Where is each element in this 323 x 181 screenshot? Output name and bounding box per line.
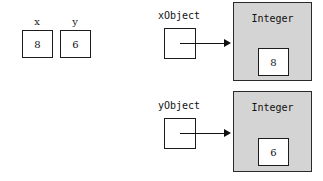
pointer-arrow-line-xobject [180,43,225,44]
reference-label-yobject: yObject [158,100,200,111]
object-field-value-8: 8 [270,57,276,68]
variable-value-x: 8 [34,39,40,50]
object-field-box-6: 6 [258,138,289,166]
pointer-arrow-line-yobject [180,133,225,134]
pointer-arrow-head-yobject [224,129,231,137]
diagram-canvas: x 8 y 6 xObject Integer 8 yObject Intege… [0,0,323,181]
object-field-value-6: 6 [270,147,276,158]
pointer-arrow-head-xobject [224,39,231,47]
variable-label-x: x [22,16,52,27]
variable-value-y: 6 [72,39,78,50]
variable-label-y: y [60,16,90,27]
object-class-name-6: Integer [234,102,311,113]
object-box-integer-8: Integer 8 [233,2,312,81]
object-box-integer-6: Integer 6 [233,91,312,172]
object-class-name-8: Integer [234,13,311,24]
reference-label-xobject: xObject [158,10,200,21]
variable-box-y: 6 [60,30,91,58]
object-field-box-8: 8 [258,48,289,76]
variable-box-x: 8 [22,30,53,58]
